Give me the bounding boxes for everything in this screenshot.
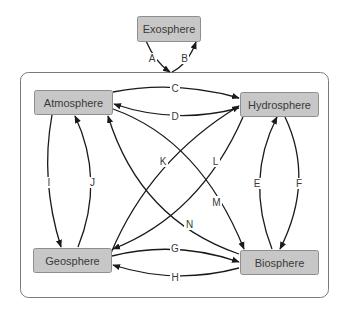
edge-label-J: J <box>90 177 95 188</box>
edge-B: B <box>172 42 196 72</box>
edge-label-F: F <box>296 178 302 189</box>
edge-label-M: M <box>212 197 220 208</box>
edge-label-C: C <box>171 83 178 94</box>
node-biosphere: Biosphere <box>241 251 319 275</box>
node-hydrosphere: Hydrosphere <box>241 93 319 117</box>
node-label-atmosphere: Atmosphere <box>44 97 103 109</box>
node-label-biosphere: Biosphere <box>255 257 305 269</box>
node-exosphere: Exosphere <box>138 17 201 42</box>
edge-label-I: I <box>48 177 51 188</box>
edge-label-A: A <box>149 53 156 64</box>
edge-label-G: G <box>171 243 179 254</box>
edge-label-E: E <box>254 178 261 189</box>
edge-A: A <box>146 41 170 72</box>
node-label-hydrosphere: Hydrosphere <box>248 99 311 111</box>
edge-label-L: L <box>213 156 219 167</box>
edge-label-N: N <box>186 219 193 230</box>
node-atmosphere: Atmosphere <box>35 91 113 115</box>
edge-label-K: K <box>160 156 167 167</box>
node-geosphere: Geosphere <box>34 249 112 273</box>
node-label-geosphere: Geosphere <box>45 255 99 267</box>
earth-systems-diagram: A B C D I J E F <box>0 0 349 309</box>
edge-label-B: B <box>181 53 188 64</box>
edge-label-H: H <box>171 272 178 283</box>
node-label-exosphere: Exosphere <box>143 23 196 35</box>
edge-label-D: D <box>171 111 178 122</box>
